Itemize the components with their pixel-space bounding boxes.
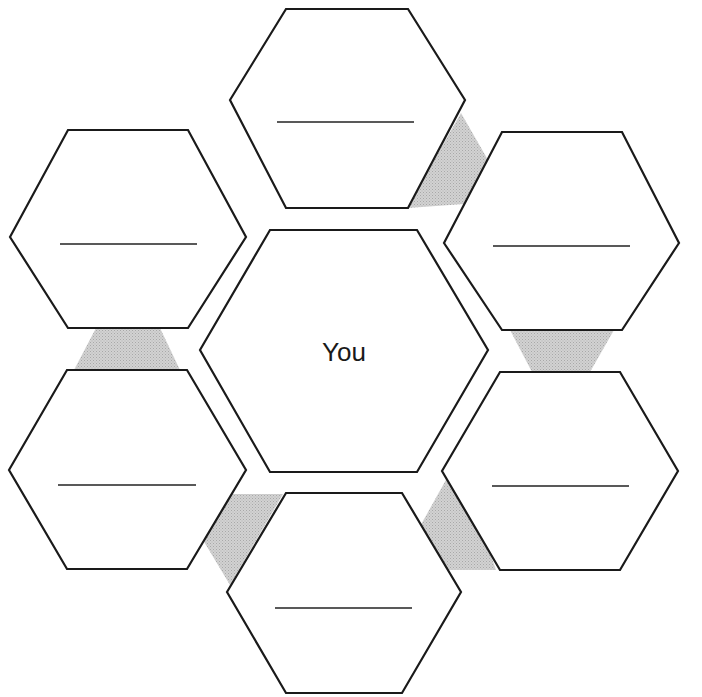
center-label: You bbox=[322, 337, 366, 367]
hex-center: You bbox=[200, 230, 488, 472]
hexagon-upper-left bbox=[10, 130, 246, 328]
connector-lower-left-upper-left bbox=[74, 328, 180, 370]
hexagon-diagram: You bbox=[0, 0, 702, 697]
connector-upper-right-lower-right bbox=[510, 330, 614, 372]
hex-upper-left bbox=[10, 130, 246, 328]
